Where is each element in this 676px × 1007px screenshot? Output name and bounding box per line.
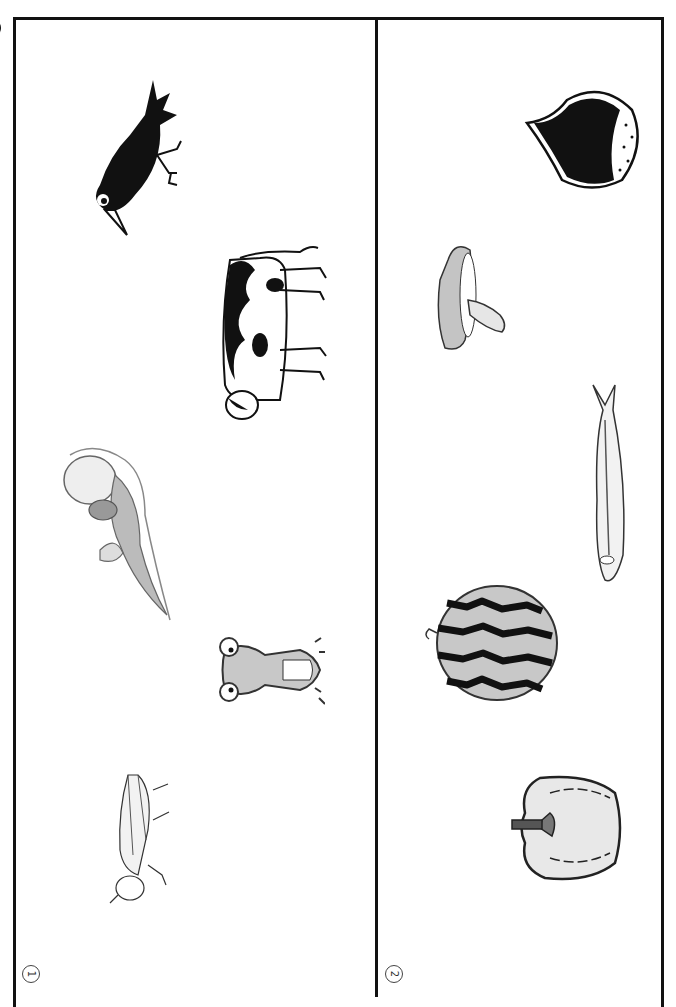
- crow-icon[interactable]: [85, 75, 185, 240]
- sea-otter-icon[interactable]: [45, 415, 180, 630]
- chestnut-icon[interactable]: [522, 85, 642, 190]
- worksheet-title: [0, 6, 14, 136]
- side-note-text: [666, 20, 674, 980]
- pepper-icon[interactable]: [510, 768, 625, 888]
- section-divider: [375, 17, 378, 997]
- section-1-number: 1: [22, 965, 40, 983]
- section-2-number: 2: [385, 965, 403, 983]
- fish-icon[interactable]: [585, 380, 635, 585]
- mushroom-icon[interactable]: [430, 240, 510, 355]
- cow-icon[interactable]: [200, 240, 340, 425]
- frog-icon[interactable]: [215, 630, 325, 710]
- watermelon-icon[interactable]: [422, 583, 562, 703]
- grasshopper-icon[interactable]: [108, 770, 173, 910]
